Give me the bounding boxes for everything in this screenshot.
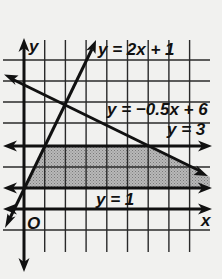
line2-label: y = −0.5x + 6 (106, 100, 208, 119)
y-axis (19, 38, 30, 272)
line3-label: y = 3 (166, 120, 206, 139)
line-y-equals-2x-plus-1 (5, 40, 96, 228)
origin-label: O (27, 214, 40, 233)
line1-label: y = 2x + 1 (97, 40, 175, 59)
y-axis-label: y (28, 37, 40, 56)
line4-label: y = 1 (95, 190, 134, 209)
x-axis-label: x (200, 211, 212, 230)
coordinate-graph: y x O y = 2x + 1 y = −0.5x + 6 y = 3 y =… (0, 0, 222, 279)
